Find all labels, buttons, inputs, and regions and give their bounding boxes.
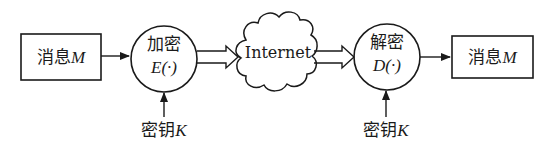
diagram-canvas bbox=[0, 0, 550, 156]
encrypt-text: 加密 bbox=[131, 34, 197, 54]
internet-label: Internet bbox=[240, 43, 316, 63]
message-source-var: M bbox=[71, 48, 85, 67]
encrypt-key-label: 密钥K bbox=[130, 120, 198, 141]
decrypt-key-text: 密钥 bbox=[363, 120, 397, 140]
hollow-arrow-internet-to-decrypt bbox=[314, 46, 354, 68]
encrypt-key-var: K bbox=[175, 121, 186, 140]
message-destination-label: 消息M bbox=[452, 47, 533, 68]
internet-text: Internet bbox=[245, 43, 311, 62]
message-source-label: 消息M bbox=[21, 47, 101, 68]
decrypt-key-label: 密钥K bbox=[352, 120, 420, 141]
encrypt-label: 加密 E(·) bbox=[131, 34, 197, 78]
decrypt-text: 解密 bbox=[354, 32, 420, 52]
hollow-arrow-encrypt-to-internet bbox=[197, 46, 238, 68]
decrypt-label: 解密 D(·) bbox=[354, 32, 420, 76]
message-source-text: 消息 bbox=[37, 47, 71, 67]
decrypt-key-var: K bbox=[397, 121, 408, 140]
message-destination-var: M bbox=[502, 48, 516, 67]
encrypt-key-text: 密钥 bbox=[141, 120, 175, 140]
decrypt-function: D(·) bbox=[354, 56, 420, 76]
message-destination-text: 消息 bbox=[468, 47, 502, 67]
encrypt-function: E(·) bbox=[131, 58, 197, 78]
